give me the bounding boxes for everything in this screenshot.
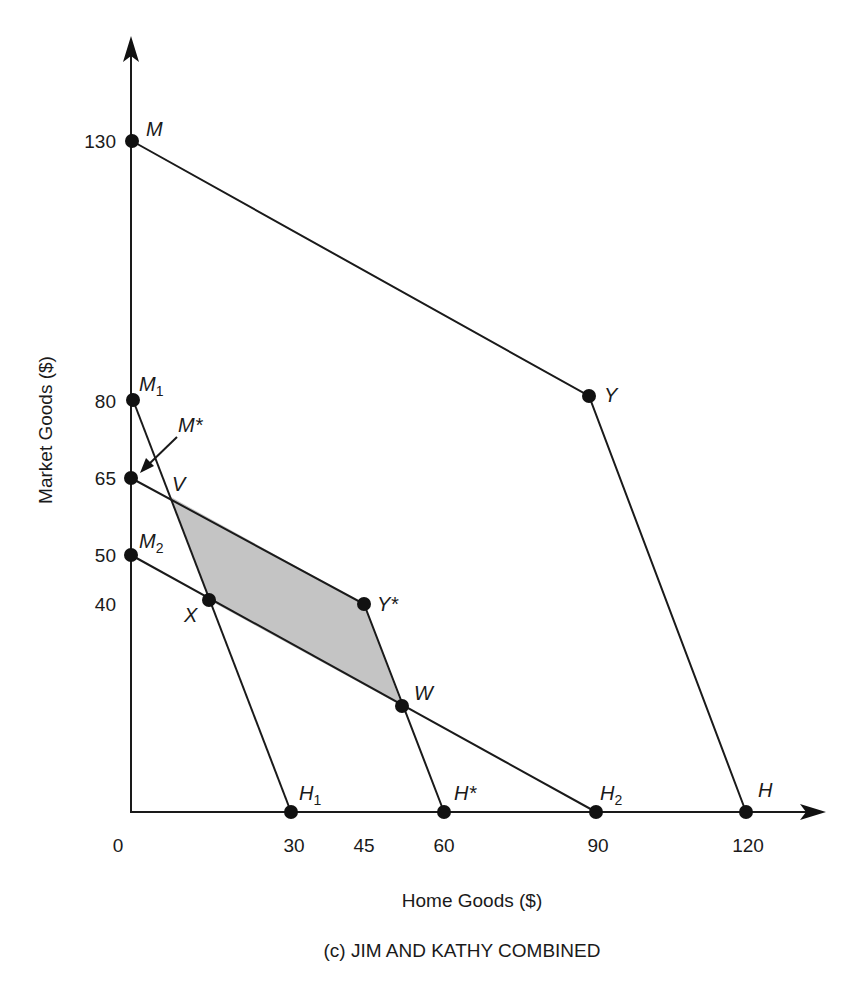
- point-h: [739, 805, 753, 819]
- point-ystar: [357, 597, 371, 611]
- x-tick-60: 60: [433, 835, 454, 856]
- point-m: [125, 134, 139, 148]
- label-m1: M1: [139, 373, 164, 399]
- x-tick-90: 90: [587, 835, 608, 856]
- mstar-pointer-line: [147, 437, 177, 466]
- label-v: V: [172, 473, 187, 495]
- x-tick-0: 0: [113, 835, 124, 856]
- y-tick-130: 130: [84, 131, 116, 152]
- x-tick-120: 120: [732, 835, 764, 856]
- point-x: [202, 593, 216, 607]
- y-tick-65: 65: [95, 468, 116, 489]
- y-tick-50: 50: [95, 545, 116, 566]
- point-w: [395, 699, 409, 713]
- point-h1: [284, 805, 298, 819]
- y-tick-80: 80: [95, 391, 116, 412]
- point-y: [582, 389, 596, 403]
- label-hstar: H*: [454, 782, 477, 804]
- line-m2-h2: [131, 555, 596, 812]
- label-m: M: [146, 118, 163, 140]
- y-axis-title: Market Goods ($): [35, 356, 56, 504]
- frontier-m-y-h: [132, 141, 746, 812]
- chart-caption: (c) JIM AND KATHY COMBINED: [324, 940, 601, 961]
- y-tick-40: 40: [95, 594, 116, 615]
- x-axis-title: Home Goods ($): [402, 890, 542, 911]
- point-mstar: [124, 471, 138, 485]
- label-y: Y: [604, 384, 619, 406]
- point-m2: [124, 548, 138, 562]
- x-tick-30: 30: [283, 835, 304, 856]
- label-x: X: [183, 604, 198, 626]
- point-m1: [126, 393, 140, 407]
- x-tick-45: 45: [353, 835, 374, 856]
- label-h: H: [758, 779, 773, 801]
- label-w: W: [414, 682, 435, 704]
- label-ystar: Y*: [377, 593, 399, 615]
- production-possibilities-chart: 130 80 65 50 40 0 30 45 60 90 120 M Y H …: [0, 0, 862, 994]
- label-m2: M2: [139, 530, 164, 556]
- point-hstar: [437, 805, 451, 819]
- line-mstar-ystar-hstar: [131, 478, 444, 812]
- label-mstar: M*: [178, 414, 204, 436]
- point-h2: [589, 805, 603, 819]
- label-h2: H2: [600, 782, 622, 808]
- label-h1: H1: [299, 782, 321, 808]
